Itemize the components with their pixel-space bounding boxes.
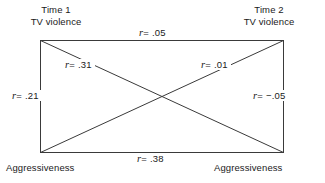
value-left: .21 [25,90,39,101]
equals-top: = [143,27,149,38]
correlation-label-diagonal-descending: r= .31 [62,59,95,70]
correlation-label-left: r= .21 [9,90,42,101]
equals-diag-asc: = [205,59,211,70]
value-diag-asc: .01 [214,59,228,70]
equals-diag-desc: = [69,59,75,70]
correlation-label-diagonal-ascending: r= .01 [198,59,231,70]
equals-right: = [257,90,263,101]
node-label-time1-tv-violence: Time 1 TV violence [14,4,98,27]
correlation-label-top: r= .05 [136,27,169,38]
equals-left: = [16,90,22,101]
correlation-label-bottom: r= .38 [134,153,167,164]
value-diag-desc: .31 [78,59,92,70]
node-label-time2-aggressiveness: Aggressiveness [214,162,324,174]
cross-lagged-panel-diagram: Time 1 TV violence Time 2 TV violence Ag… [0,0,325,183]
node-label-time1-aggressiveness: Aggressiveness [6,162,116,174]
value-bottom: .38 [150,153,164,164]
equals-bottom: = [141,153,147,164]
node-label-time2-tv-violence: Time 2 TV violence [224,4,314,27]
value-right: −.05 [266,90,286,101]
value-top: .05 [152,27,166,38]
correlation-label-right: r= −.05 [250,90,288,101]
